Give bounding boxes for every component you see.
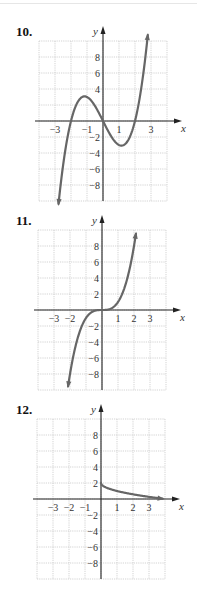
- y-tick-label: 6: [93, 446, 98, 457]
- y-axis-label: y: [90, 403, 96, 415]
- y-axis-arrow-icon: [99, 404, 104, 412]
- x-tick-label: −2: [64, 502, 75, 513]
- y-tick-label: 4: [93, 462, 98, 473]
- y-tick-label: −6: [87, 542, 98, 553]
- x-axis-label: x: [178, 500, 184, 512]
- y-tick-label: 2: [93, 478, 98, 489]
- function-curve: [101, 483, 163, 499]
- y-tick-label: −2: [87, 510, 98, 521]
- y-tick-label: −4: [87, 526, 98, 537]
- y-tick-label: −8: [87, 558, 98, 569]
- x-tick-label: 1: [115, 502, 120, 513]
- graph-problem-12: xy−3−2−11238642−2−4−6−8: [0, 0, 197, 600]
- x-tick-label: 3: [147, 502, 152, 513]
- y-tick-label: 8: [93, 430, 98, 441]
- x-tick-label: 2: [131, 502, 136, 513]
- x-tick-label: −3: [48, 502, 59, 513]
